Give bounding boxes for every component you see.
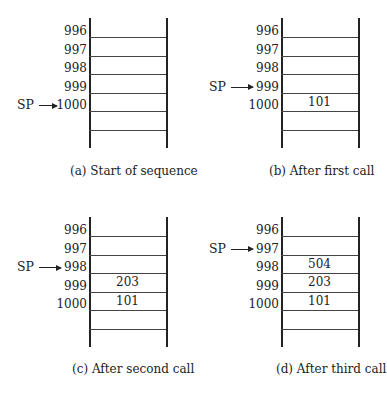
address-label: 996 — [245, 24, 279, 38]
stack-cell-divider — [89, 37, 166, 38]
stack-cell-value: 203 — [281, 275, 358, 289]
stack-cell-divider — [281, 74, 358, 75]
stack-cell-divider — [89, 329, 166, 330]
stack-cell-divider — [281, 130, 358, 131]
address-label: 999 — [53, 279, 87, 293]
stack-pointer-label: SP — [17, 98, 34, 112]
address-label: 1000 — [53, 98, 87, 112]
stack-cell-divider — [281, 236, 358, 237]
stack-cell-divider — [89, 74, 166, 75]
address-label: 1000 — [245, 98, 279, 112]
stack-right-wall — [358, 18, 360, 148]
address-label: 998 — [245, 61, 279, 75]
panel-caption: (a) Start of sequence — [70, 164, 198, 178]
stack-cell-divider — [89, 56, 166, 57]
address-label: 998 — [53, 61, 87, 75]
panel-caption: (b) After first call — [269, 164, 374, 178]
stack-cell-divider — [89, 273, 166, 274]
stack-pointer-label: SP — [209, 242, 226, 256]
stack-cell-divider — [281, 93, 358, 94]
stack-cell-divider — [281, 292, 358, 293]
stack-cell-divider — [89, 111, 166, 112]
stack-cell-divider — [89, 292, 166, 293]
stack-cell-divider — [281, 111, 358, 112]
stack-cell-value: 101 — [89, 294, 166, 308]
stack-cell-divider — [281, 329, 358, 330]
address-label: 996 — [245, 223, 279, 237]
address-label: 997 — [53, 242, 87, 256]
stack-cell-value: 504 — [281, 257, 358, 271]
stack-cell-divider — [281, 273, 358, 274]
stack-cell-divider — [281, 56, 358, 57]
stack-cell-divider — [281, 37, 358, 38]
panel-caption: (d) After third call — [276, 362, 386, 376]
address-label: 1000 — [53, 297, 87, 311]
panel-caption: (c) After second call — [72, 362, 194, 376]
address-label: 999 — [245, 279, 279, 293]
address-label: 996 — [53, 24, 87, 38]
stack-pointer-label: SP — [209, 80, 226, 94]
stack-cell-value: 203 — [89, 275, 166, 289]
stack-cell-divider — [281, 255, 358, 256]
stack-cell-divider — [89, 255, 166, 256]
stack-right-wall — [166, 18, 168, 148]
stack-cell-divider — [89, 130, 166, 131]
address-label: 997 — [245, 43, 279, 57]
stack-pointer-label: SP — [17, 260, 34, 274]
stack-cell-divider — [281, 310, 358, 311]
address-label: 999 — [53, 80, 87, 94]
stack-cell-value: 101 — [281, 95, 358, 109]
stack-cell-divider — [89, 310, 166, 311]
arrow-right-icon — [39, 267, 61, 268]
address-label: 997 — [53, 43, 87, 57]
stack-cell-divider — [89, 93, 166, 94]
stack-right-wall — [358, 217, 360, 347]
stack-cell-divider — [89, 236, 166, 237]
address-label: 998 — [245, 260, 279, 274]
arrow-right-icon — [231, 87, 253, 88]
arrow-right-icon — [39, 105, 57, 106]
arrow-right-icon — [231, 249, 253, 250]
address-label: 996 — [53, 223, 87, 237]
stack-right-wall — [166, 217, 168, 347]
address-label: 1000 — [245, 297, 279, 311]
stack-cell-value: 101 — [281, 294, 358, 308]
